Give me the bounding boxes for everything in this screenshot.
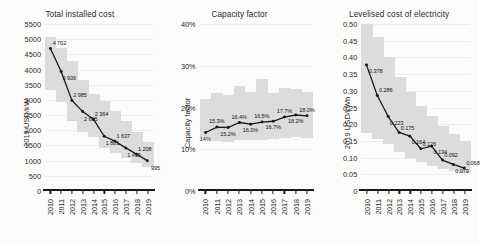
x-axis-tick-mark [115, 191, 116, 195]
panel-capacity-factor: Capacity factor Capacity factor 0%10%20%… [160, 0, 320, 245]
data-point-label: 0.378 [369, 68, 383, 74]
y-axis-tick-label: 5500 [25, 20, 41, 29]
x-axis-tick-label-text: 2014 [89, 199, 98, 215]
y-axis-tick-label: 40% [181, 20, 196, 29]
x-axis-tick-label-text: 2019 [460, 199, 469, 215]
series-line [361, 24, 470, 191]
panel-title: Total installed cost [0, 10, 160, 19]
x-axis-tick-mark [227, 191, 228, 195]
x-axis-tick-mark [50, 191, 51, 195]
panel-levelised-cost-of-electricity: Levelised cost of electricity 2019 USD/k… [319, 0, 479, 245]
x-axis-tick-label-text: 2010 [201, 199, 210, 215]
y-axis-tick-label: 30% [181, 61, 196, 70]
y-axis-tick-label: 3500 [25, 80, 41, 89]
x-axis-tick-label-text: 2018 [449, 199, 458, 215]
x-axis-tick-mark [216, 191, 217, 195]
x-axis-tick-label-text: 2013 [78, 199, 87, 215]
x-axis-tick-label-text: 2010 [362, 199, 371, 215]
data-point-label: 0.092 [444, 152, 458, 158]
x-axis-tick-label-text: 2015 [417, 199, 426, 215]
x-axis-tick-label-text: 2014 [246, 199, 255, 215]
series-line [200, 24, 313, 191]
x-axis-tick-label-text: 2017 [122, 199, 131, 215]
data-point-label: 1 801 [106, 140, 120, 146]
y-axis-tick-label: 0% [185, 187, 196, 196]
y-axis-tick-label: 10% [181, 145, 196, 154]
x-axis-tick-mark [432, 191, 433, 195]
x-axis-tick-mark [295, 191, 296, 195]
panel-total-installed-cost: Total installed cost 2019 USD/kW 0500100… [0, 0, 160, 245]
y-axis-tick-label: 0.50 [343, 20, 357, 29]
data-point-label: 1 415 [127, 152, 141, 158]
x-axis-tick-mark [366, 191, 367, 195]
x-axis-tick-label-text: 2016 [428, 199, 437, 215]
x-axis-tick-mark [399, 191, 400, 195]
x-axis-tick-label-text: 2011 [212, 199, 221, 214]
data-point-label: 16.0% [243, 127, 258, 133]
x-axis-tick-mark [125, 191, 126, 195]
data-point-label: 1 208 [138, 146, 152, 152]
y-axis-tick-label: 3000 [25, 95, 41, 104]
x-axis-tick-label-text: 2013 [395, 199, 404, 215]
y-axis-tick-label: 5000 [25, 35, 41, 44]
x-axis-tick-mark [284, 191, 285, 195]
y-axis-tick-label: 0.35 [343, 70, 357, 79]
x-axis-tick-label-text: 2014 [406, 199, 415, 215]
data-point-label: 16.5% [254, 113, 269, 119]
data-point-label: 16.7% [265, 124, 280, 130]
data-point-label: 14% [200, 136, 211, 142]
y-axis-tick-label: 0 [353, 187, 357, 196]
x-axis-tick-mark [61, 191, 62, 195]
panel-title: Levelised cost of electricity [319, 10, 479, 19]
y-axis-tick-label: 0.30 [343, 86, 357, 95]
x-axis-tick-label-text: 2011 [373, 199, 382, 214]
x-axis-tick-mark [93, 191, 94, 195]
y-axis-tick-label: 0.05 [343, 170, 357, 179]
x-axis-tick-label-text: 2013 [235, 199, 244, 215]
x-axis-tick-mark [377, 191, 378, 195]
x-axis-tick-mark [306, 191, 307, 195]
y-axis-tick-label: 1500 [25, 141, 41, 150]
y-axis-tick-label: 0 [37, 187, 41, 196]
data-point-label: 3 936 [62, 75, 76, 81]
data-point-label: 18.2% [288, 118, 303, 124]
x-axis-tick-label-text: 2017 [439, 199, 448, 215]
data-point-label: 2 985 [73, 92, 87, 98]
plot-area: 0500100015002000250030003500400045005000… [45, 24, 153, 191]
data-point-label: 2 364 [95, 111, 109, 117]
x-axis-tick-label-text: 2016 [111, 199, 120, 215]
x-axis-tick-label-text: 2018 [132, 199, 141, 215]
x-axis-tick-label-text: 2010 [46, 199, 55, 215]
data-point-label: 1 637 [116, 133, 130, 139]
y-axis-tick-label: 20% [181, 103, 196, 112]
x-axis-tick-mark [250, 191, 251, 195]
data-point-label: 0.126 [423, 141, 437, 147]
x-axis-tick-mark [443, 191, 444, 195]
x-axis-tick-label-text: 2019 [303, 199, 312, 215]
x-axis-tick-mark [273, 191, 274, 195]
y-axis-tick-label: 1000 [25, 156, 41, 165]
plot-area: 0%10%20%30%40%14%15.3%15.2%16.4%16.0%16.… [200, 24, 313, 191]
y-axis-tick-label: 0.25 [343, 103, 357, 112]
panel-title: Capacity factor [160, 10, 320, 19]
x-axis-tick-mark [453, 191, 454, 195]
data-point-label: 4 702 [53, 40, 67, 46]
data-point-label: 0.175 [401, 125, 415, 131]
x-axis-tick-mark [421, 191, 422, 195]
x-axis-tick-label-text: 2019 [143, 199, 152, 215]
y-axis-tick-label: 0.15 [343, 136, 357, 145]
x-axis-tick-mark [410, 191, 411, 195]
x-axis-tick-label-text: 2018 [291, 199, 300, 215]
data-point-label: 16.4% [232, 114, 247, 120]
y-axis-tick-label: 4500 [25, 50, 41, 59]
x-axis-tick-mark [388, 191, 389, 195]
x-axis-tick-mark [261, 191, 262, 195]
x-axis-tick-label-text: 2015 [100, 199, 109, 215]
y-axis-tick-label: 0.10 [343, 153, 357, 162]
x-axis-tick-mark [104, 191, 105, 195]
x-axis-tick-mark [71, 191, 72, 195]
x-axis-tick-label-text: 2012 [384, 199, 393, 215]
data-point-label: 17.7% [277, 108, 292, 114]
x-axis-tick-label-text: 2012 [68, 199, 77, 215]
